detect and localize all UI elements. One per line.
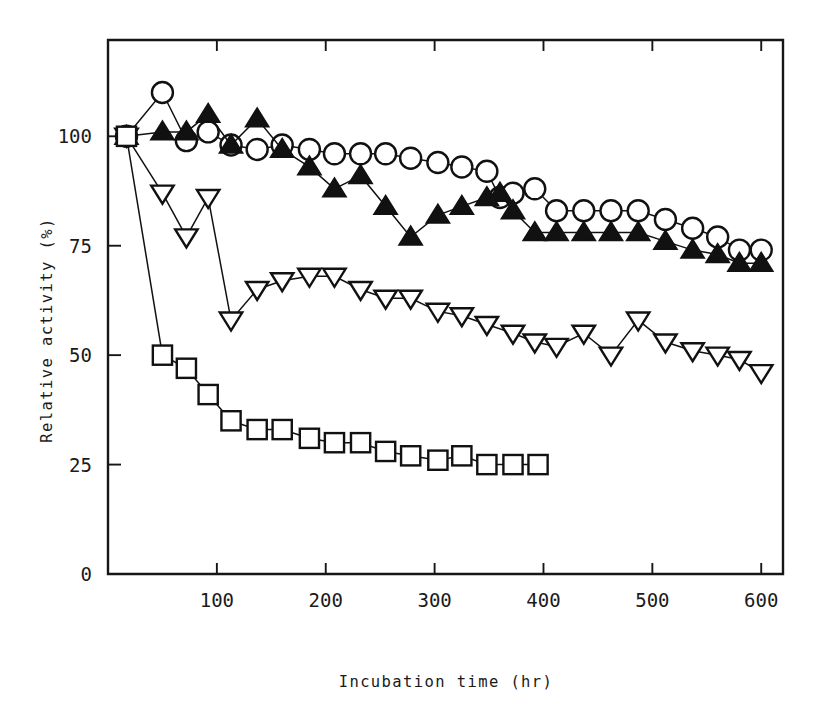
x-tick-label: 600 xyxy=(744,589,778,611)
y-tick-label: 100 xyxy=(58,125,92,147)
x-tick-label: 400 xyxy=(526,589,560,611)
marker-open-square-6 xyxy=(273,420,292,439)
marker-open-circle-13 xyxy=(451,156,472,177)
marker-open-circle-11 xyxy=(400,148,421,169)
marker-open-square-9 xyxy=(351,433,370,452)
marker-open-square-15 xyxy=(503,455,522,474)
marker-open-square-10 xyxy=(376,442,395,461)
marker-open-circle-17 xyxy=(524,178,545,199)
marker-open-square-16 xyxy=(528,455,547,474)
y-tick-label: 0 xyxy=(81,563,92,585)
marker-open-square-8 xyxy=(325,433,344,452)
marker-open-square-5 xyxy=(248,420,267,439)
x-tick-label: 500 xyxy=(635,589,669,611)
marker-open-circle-14 xyxy=(476,161,497,182)
marker-open-circle-23 xyxy=(682,218,703,239)
marker-open-square-11 xyxy=(401,446,420,465)
y-tick-label: 25 xyxy=(69,454,92,476)
marker-open-circle-18 xyxy=(546,200,567,221)
marker-open-circle-5 xyxy=(247,139,268,160)
marker-open-circle-20 xyxy=(600,200,621,221)
marker-open-square-12 xyxy=(428,451,447,470)
x-tick-label: 200 xyxy=(309,589,343,611)
marker-open-square-0 xyxy=(117,127,136,146)
chart-figure: 100200300400500600 0255075100 Incubation… xyxy=(0,0,824,717)
y-tick-label: 75 xyxy=(69,235,92,257)
marker-open-square-4 xyxy=(221,411,240,430)
marker-open-circle-9 xyxy=(350,143,371,164)
marker-open-square-1 xyxy=(153,346,172,365)
marker-open-square-3 xyxy=(199,385,218,404)
marker-open-circle-22 xyxy=(655,209,676,230)
relative-activity-vs-incubation-time-chart: 100200300400500600 0255075100 Incubation… xyxy=(0,0,824,717)
y-tick-label: 50 xyxy=(69,344,92,366)
x-tick-label: 300 xyxy=(417,589,451,611)
marker-open-circle-1 xyxy=(152,82,173,103)
chart-background xyxy=(0,0,824,717)
marker-open-square-7 xyxy=(300,429,319,448)
marker-open-circle-12 xyxy=(427,152,448,173)
marker-open-square-14 xyxy=(477,455,496,474)
y-axis-title: Relative activity (%) xyxy=(38,217,56,442)
x-tick-label: 100 xyxy=(200,589,234,611)
marker-open-square-13 xyxy=(452,446,471,465)
marker-open-square-2 xyxy=(177,359,196,378)
x-axis-title: Incubation time (hr) xyxy=(339,673,554,691)
marker-open-circle-8 xyxy=(324,143,345,164)
marker-open-circle-21 xyxy=(628,200,649,221)
marker-open-circle-19 xyxy=(573,200,594,221)
marker-open-circle-10 xyxy=(375,143,396,164)
